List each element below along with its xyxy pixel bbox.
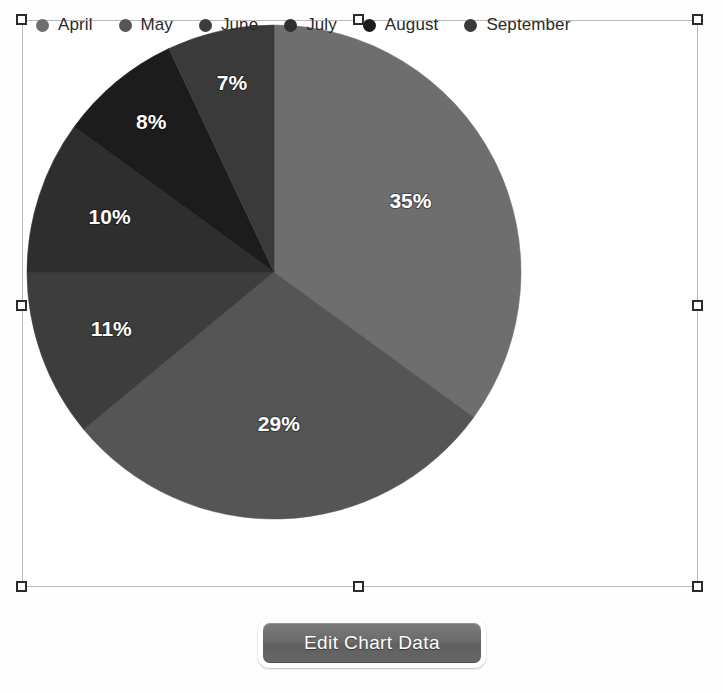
pie-slice-label: 10% bbox=[89, 205, 131, 228]
pie-slice-label: 7% bbox=[217, 71, 248, 94]
legend-item-label: May bbox=[141, 15, 173, 35]
legend-item-september[interactable]: September bbox=[464, 15, 570, 35]
selection-handle-middle-right[interactable] bbox=[692, 300, 703, 311]
pie-slice-label: 11% bbox=[91, 317, 132, 340]
selection-handle-top-center[interactable] bbox=[353, 14, 364, 25]
legend-swatch-icon bbox=[36, 19, 49, 32]
selection-handle-bottom-right[interactable] bbox=[692, 581, 703, 592]
legend-swatch-icon bbox=[464, 19, 477, 32]
selection-handle-top-left[interactable] bbox=[16, 14, 27, 25]
legend-item-august[interactable]: August bbox=[363, 15, 439, 35]
selection-handle-middle-left[interactable] bbox=[16, 300, 27, 311]
legend-item-april[interactable]: April bbox=[36, 15, 93, 35]
pie-chart[interactable]: 35%29%11%10%8%7% bbox=[22, 20, 698, 587]
legend-item-july[interactable]: July bbox=[284, 15, 337, 35]
edit-chart-data-label: Edit Chart Data bbox=[304, 632, 440, 654]
selection-handle-bottom-left[interactable] bbox=[16, 581, 27, 592]
selection-handle-top-right[interactable] bbox=[692, 14, 703, 25]
legend-item-label: September bbox=[486, 15, 570, 35]
legend-swatch-icon bbox=[119, 19, 132, 32]
pie-slice-group[interactable] bbox=[27, 25, 521, 519]
pie-chart-svg[interactable]: 35%29%11%10%8%7% bbox=[22, 20, 698, 587]
legend-item-label: June bbox=[221, 15, 258, 35]
legend-item-may[interactable]: May bbox=[119, 15, 173, 35]
pie-slice-label: 29% bbox=[258, 412, 300, 435]
pie-slice-label: 35% bbox=[389, 189, 431, 212]
legend-swatch-icon bbox=[363, 19, 376, 32]
selection-handle-bottom-center[interactable] bbox=[353, 581, 364, 592]
pie-slice-label: 8% bbox=[136, 110, 167, 133]
legend-item-label: April bbox=[58, 15, 93, 35]
edit-chart-data-button-wrap: Edit Chart Data bbox=[258, 618, 486, 668]
legend-item-label: August bbox=[385, 15, 439, 35]
edit-chart-data-button[interactable]: Edit Chart Data bbox=[258, 618, 486, 668]
edit-chart-data-button-face: Edit Chart Data bbox=[263, 623, 481, 663]
chart-editor-canvas: April May June July August September 35%… bbox=[0, 0, 723, 693]
legend-item-june[interactable]: June bbox=[199, 15, 258, 35]
legend-item-label: July bbox=[306, 15, 337, 35]
legend-swatch-icon bbox=[284, 19, 297, 32]
legend-swatch-icon bbox=[199, 19, 212, 32]
